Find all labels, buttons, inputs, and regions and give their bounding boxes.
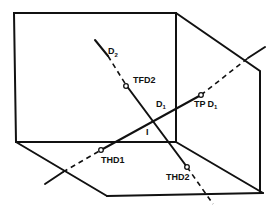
line-d2-bottom-dashed bbox=[187, 167, 213, 204]
trace-point-tfd2 bbox=[124, 84, 129, 89]
trace-point-thd2 bbox=[185, 165, 190, 170]
line-d1-upper-solid bbox=[248, 47, 265, 58]
line-d1-upper-dashed bbox=[201, 58, 248, 95]
line-d2 bbox=[95, 40, 213, 204]
horizontal-plane bbox=[16, 142, 263, 196]
label-thd2: THD2 bbox=[166, 172, 190, 182]
projection-planes-diagram: D2 TFD2 D1 TPD1 I THD1 THD2 bbox=[0, 0, 271, 212]
trace-point-thd1 bbox=[99, 148, 104, 153]
line-d2-top-dashed bbox=[108, 56, 126, 85]
label-tpd1: TPD1 bbox=[194, 99, 218, 110]
horizontal-plane-left-edge bbox=[16, 142, 107, 196]
trace-point-tpd1 bbox=[199, 93, 204, 98]
label-d1: D1 bbox=[156, 99, 167, 110]
line-d2-visible-segment bbox=[126, 85, 187, 167]
label-d2: D2 bbox=[108, 46, 119, 58]
label-intersection-i: I bbox=[146, 127, 149, 137]
line-d1 bbox=[45, 47, 265, 184]
line-d1-lower-dashed bbox=[63, 150, 101, 172]
line-d1-lower-solid bbox=[45, 172, 63, 184]
label-thd1: THD1 bbox=[101, 155, 125, 165]
horizontal-plane-front-edge bbox=[107, 193, 263, 196]
label-tfd2: TFD2 bbox=[133, 75, 156, 85]
line-d2-top-solid bbox=[95, 40, 108, 56]
